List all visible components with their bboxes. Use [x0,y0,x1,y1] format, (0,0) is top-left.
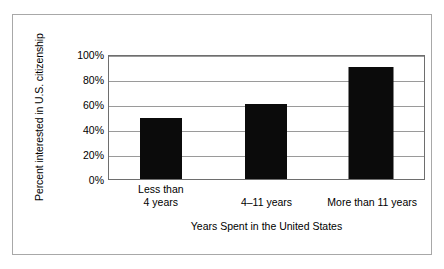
y-axis-tick-label: 20% [83,149,104,161]
x-axis-tick-label-less-than-4-years: Less than 4 years [108,183,214,209]
y-axis-tick-labels: 100% 80% 60% 40% 20% 0% [60,48,104,188]
plot-area [108,55,425,180]
bars-layer [109,56,424,179]
y-axis-tick-label: 0% [89,174,104,186]
x-tick-line: 4 years [108,196,214,209]
x-axis-title: Years Spent in the United States [108,220,425,233]
y-axis-tick-label: 100% [77,49,104,61]
x-tick-line: More than 11 years [319,196,425,209]
x-tick-line: Less than [108,183,214,196]
bar-slot [319,56,424,179]
bar-less-than-4-years[interactable] [140,118,182,179]
x-axis-tick-label-4-11-years: 4–11 years [214,196,320,209]
y-axis-tick-label: 40% [83,124,104,136]
y-axis-tick-label: 80% [83,74,104,86]
bar-chart-figure: Percent interested in U.S. citizenship 1… [0,0,444,269]
bar-slot [214,56,319,179]
bar-slot [109,56,214,179]
x-axis-tick-labels: Less than 4 years 4–11 years More than 1… [108,183,425,217]
y-axis-title: Percent interested in U.S. citizenship [33,41,45,201]
bar-more-than-11-years[interactable] [349,67,394,180]
y-axis-tick-label: 60% [83,99,104,111]
x-tick-line: 4–11 years [214,196,320,209]
x-axis-tick-label-more-than-11-years: More than 11 years [319,196,425,209]
bar-4-11-years[interactable] [245,104,287,179]
